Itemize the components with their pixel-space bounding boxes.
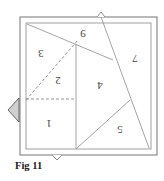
folding-diagram: 9 3 2 4 7 1 5 bbox=[0, 0, 164, 181]
region-7-label: 7 bbox=[132, 53, 138, 65]
figure-caption: Fig 11 bbox=[15, 160, 42, 171]
region-2-label: 2 bbox=[55, 75, 61, 87]
dashed-fold-diagonal bbox=[26, 40, 78, 100]
region-3-label: 3 bbox=[38, 48, 44, 60]
region-1-label: 1 bbox=[46, 118, 52, 130]
bottom-tab bbox=[52, 155, 62, 160]
marker-9-label: 9 bbox=[80, 28, 86, 40]
top-tab bbox=[97, 12, 105, 17]
left-flap bbox=[8, 98, 19, 122]
region-5-label: 5 bbox=[117, 124, 123, 136]
inner-square bbox=[26, 23, 151, 149]
fold-line-right bbox=[101, 17, 149, 148]
region-4-label: 4 bbox=[97, 80, 103, 92]
outer-frame bbox=[20, 17, 157, 155]
